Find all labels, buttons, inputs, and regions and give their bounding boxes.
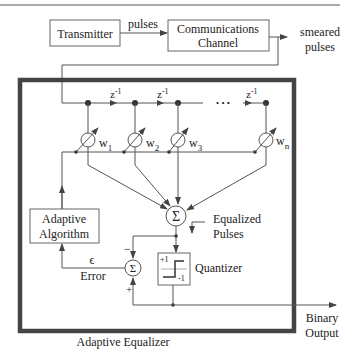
transmitter-block: Transmitter — [50, 20, 120, 46]
svg-text:z-1: z-1 — [110, 87, 122, 100]
transmitter-label: Transmitter — [57, 27, 113, 41]
binary-label-line2: Output — [305, 326, 339, 340]
plus-sign: + — [126, 283, 132, 295]
svg-text:z-1: z-1 — [157, 87, 169, 100]
delay-label-3: z-1 — [246, 87, 258, 100]
equalized-label-line2: Pulses — [213, 227, 244, 241]
svg-text:Algorithm: Algorithm — [39, 227, 90, 241]
weight-w2: w2 — [124, 128, 159, 153]
svg-text:Σ: Σ — [172, 209, 180, 224]
svg-text:z-1: z-1 — [246, 87, 258, 100]
weight-wn: wn — [255, 128, 290, 152]
smeared-label-line1: smeared — [300, 25, 340, 39]
delay-arrow-2 — [157, 100, 164, 106]
adaptive-algorithm-block: Adaptive Algorithm — [30, 209, 99, 243]
delay-label-1: z-1 — [110, 87, 122, 100]
svg-text:+1: +1 — [160, 255, 169, 264]
adaptive-equalizer-diagram: Transmitter pulses Communications Channe… — [0, 0, 353, 360]
w1-to-sum — [88, 147, 167, 209]
ellipsis: • • • — [216, 98, 230, 108]
main-summer: Σ — [166, 206, 186, 226]
quantizer-label: Quantizer — [195, 261, 242, 275]
quantizer-block: +1 -1 — [158, 253, 190, 285]
svg-text:w2: w2 — [146, 136, 159, 153]
svg-text:wn: wn — [276, 134, 290, 151]
weight-w1: w1 — [76, 128, 112, 153]
channel-label-line2: Channel — [198, 36, 239, 50]
binary-label-line1: Binary — [306, 311, 339, 325]
wn-to-sum — [187, 147, 266, 210]
pulses-label: pulses — [128, 17, 158, 31]
delay-label-2: z-1 — [157, 87, 169, 100]
error-summer: Σ — [125, 260, 141, 276]
error-label: Error — [80, 269, 105, 283]
svg-text:w3: w3 — [189, 136, 203, 153]
svg-text:-1: -1 — [178, 274, 185, 283]
smeared-label-line2: pulses — [305, 40, 335, 54]
channel-block: Communications Channel — [168, 20, 269, 51]
svg-text:Adaptive: Adaptive — [42, 212, 86, 226]
svg-text:w1: w1 — [99, 136, 112, 153]
delay-arrow-3 — [245, 100, 252, 106]
equalized-pointer — [192, 222, 205, 233]
equalizer-frame — [20, 80, 294, 331]
svg-text:Σ: Σ — [130, 262, 136, 274]
channel-label-line1: Communications — [177, 22, 259, 36]
w2-to-sum — [135, 147, 170, 206]
epsilon-label: ϵ — [90, 253, 95, 267]
equalized-label-line1: Equalized — [213, 212, 261, 226]
diagram-caption: Adaptive Equalizer — [77, 335, 170, 349]
minus-sign: − — [124, 242, 131, 256]
weight-w3: w3 — [169, 128, 203, 153]
delay-arrow-1 — [110, 100, 117, 106]
